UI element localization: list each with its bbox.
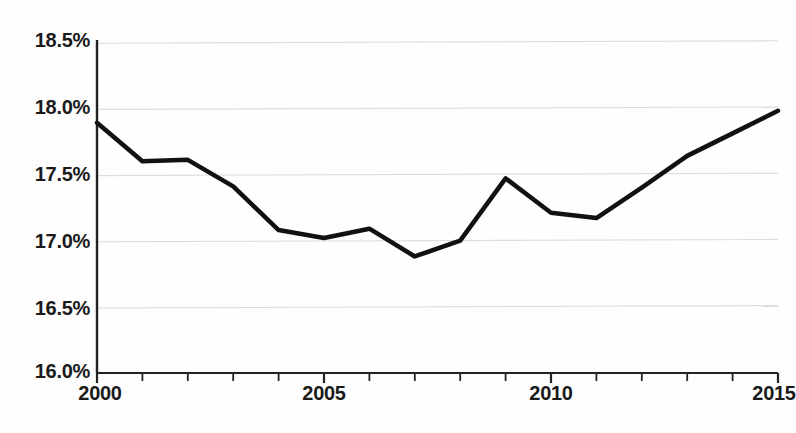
gridlines <box>97 41 778 308</box>
y-axis-label-group: 18.5% 18.0% 17.5% 17.0% 16.5% 16.0% <box>0 0 90 433</box>
gridline <box>97 41 778 43</box>
gridline <box>97 306 778 308</box>
x-tick-label-2000: 2000 <box>78 382 121 405</box>
gridline <box>97 173 778 175</box>
x-tick-label-2005: 2005 <box>302 382 345 405</box>
y-tick-label-18-0: 18.0% <box>35 96 90 119</box>
y-tick-label-18-5: 18.5% <box>35 29 90 52</box>
data-series-line <box>97 111 778 257</box>
y-tick-label-16-5: 16.5% <box>35 297 90 320</box>
y-tick-label-16-0: 16.0% <box>35 360 90 383</box>
x-tick-label-2015: 2015 <box>752 382 795 405</box>
x-tick-label-2010: 2010 <box>529 382 572 405</box>
y-tick-label-17-5: 17.5% <box>35 163 90 186</box>
x-axis-ticks <box>97 373 778 383</box>
gridline <box>97 239 778 241</box>
y-tick-label-17-0: 17.0% <box>35 230 90 253</box>
gridline <box>97 107 778 109</box>
